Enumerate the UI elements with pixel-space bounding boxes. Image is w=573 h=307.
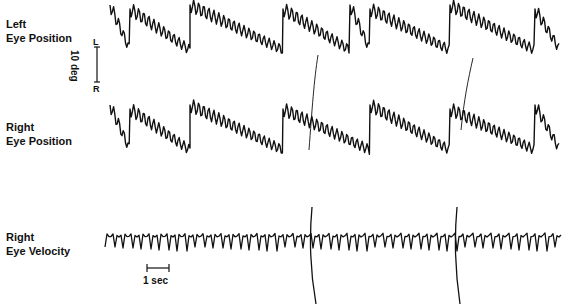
right-eye-velocity-trace	[105, 233, 561, 251]
nystagmus-figure: Left Eye Position Right Eye Position Rig…	[0, 0, 573, 307]
time-scale-bar	[147, 264, 169, 272]
traces-plot	[0, 0, 573, 307]
velocity-artifact-2	[455, 207, 460, 304]
left-eye-position-trace	[110, 0, 559, 53]
right-eye-position-trace	[110, 100, 559, 154]
velocity-artifact-1	[310, 207, 316, 304]
connector-line-1	[309, 55, 318, 150]
